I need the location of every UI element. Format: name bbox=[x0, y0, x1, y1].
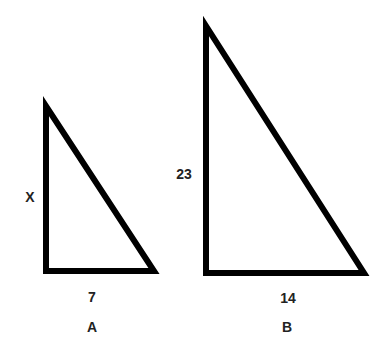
triangle-b-vertical-label: 23 bbox=[176, 166, 192, 182]
triangle-a-vertical-label: X bbox=[25, 189, 34, 205]
triangle-b-horizontal-label: 14 bbox=[280, 290, 296, 306]
triangle-b-name: B bbox=[282, 319, 292, 335]
triangle-a bbox=[46, 106, 154, 271]
triangle-b bbox=[206, 26, 364, 273]
triangle-a-name: A bbox=[87, 319, 97, 335]
triangle-a-horizontal-label: 7 bbox=[88, 289, 96, 305]
